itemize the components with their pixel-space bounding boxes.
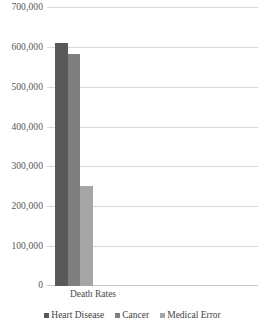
bar-medical-error[interactable] xyxy=(80,186,93,286)
legend-swatch-icon xyxy=(44,313,49,318)
bar-cancer[interactable] xyxy=(68,54,81,286)
y-tick-label-500000: 500,000 xyxy=(0,82,43,92)
legend-item-cancer[interactable]: Cancer xyxy=(115,310,149,321)
legend-label: Heart Disease xyxy=(51,310,104,321)
y-tick-label-200000: 200,000 xyxy=(0,201,43,211)
plot-area xyxy=(47,7,258,286)
y-tick-label-400000: 400,000 xyxy=(0,122,43,132)
y-tick-label-100000: 100,000 xyxy=(0,241,43,251)
legend-label: Medical Error xyxy=(167,310,221,321)
y-tick-label-600000: 600,000 xyxy=(0,42,43,52)
y-axis: 700,000 600,000 500,000 400,000 300,000 … xyxy=(0,0,43,295)
gridline-700000 xyxy=(47,7,258,8)
y-tick-label-700000: 700,000 xyxy=(0,2,43,12)
legend-item-heart-disease[interactable]: Heart Disease xyxy=(44,310,104,321)
gridline-600000 xyxy=(47,47,258,48)
legend-swatch-icon xyxy=(160,313,165,318)
y-tick-label-0: 0 xyxy=(0,280,43,290)
x-tick-label-death-rates: Death Rates xyxy=(47,288,139,300)
y-tick-label-300000: 300,000 xyxy=(0,161,43,171)
bar-chart-figure: 700,000 600,000 500,000 400,000 300,000 … xyxy=(0,0,265,324)
legend-label: Cancer xyxy=(122,310,149,321)
x-axis: Death Rates xyxy=(47,288,258,302)
legend-item-medical-error[interactable]: Medical Error xyxy=(160,310,221,321)
bar-heart-disease[interactable] xyxy=(55,43,68,286)
legend-swatch-icon xyxy=(115,313,120,318)
chart-legend: Heart Disease Cancer Medical Error xyxy=(0,308,265,322)
